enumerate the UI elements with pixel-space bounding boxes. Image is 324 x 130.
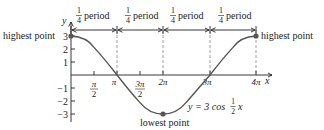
svg-text:1: 1 xyxy=(219,6,223,15)
ytick-2: 2 xyxy=(63,44,68,55)
x-ticks xyxy=(94,71,256,75)
y-axis-label: y xyxy=(61,15,67,26)
ytick-3: 3 xyxy=(63,31,68,42)
svg-text:1: 1 xyxy=(231,97,235,106)
svg-text:2: 2 xyxy=(92,89,97,99)
svg-text:period: period xyxy=(178,10,204,21)
svg-text:1: 1 xyxy=(126,6,130,15)
svg-text:period: period xyxy=(226,10,252,21)
ytick-m2: −2 xyxy=(57,96,68,107)
ytick-1: 1 xyxy=(63,57,68,68)
highest-point-right-marker xyxy=(253,33,258,38)
svg-text:period: period xyxy=(133,10,159,21)
ytick-m1: −1 xyxy=(57,83,68,94)
xtick-3pi-over-2: 3π 2 xyxy=(134,79,145,99)
period-guides xyxy=(117,30,256,75)
xtick-2pi: 2π xyxy=(158,77,168,87)
svg-text:x: x xyxy=(237,101,243,112)
xtick-pi: π xyxy=(112,77,117,87)
svg-text:2: 2 xyxy=(138,89,143,99)
equation-label: y = 3 cos 1 2 x xyxy=(187,97,243,116)
cosine-graph: 1 4 period 1 4 period 1 4 period 1 4 per… xyxy=(0,0,324,130)
x-axis-label: x xyxy=(264,75,270,86)
period-label-1: 1 4 period xyxy=(76,6,110,25)
svg-text:4: 4 xyxy=(219,16,223,25)
period-label-2: 1 4 period xyxy=(125,6,159,25)
svg-text:π: π xyxy=(92,79,97,89)
highest-point-right-label: highest point xyxy=(261,30,313,41)
ytick-m3: −3 xyxy=(57,109,68,120)
period-label-4: 1 4 period xyxy=(218,6,252,25)
svg-text:4: 4 xyxy=(126,16,130,25)
svg-text:1: 1 xyxy=(77,6,81,15)
xtick-pi-over-2: π 2 xyxy=(90,79,98,99)
svg-text:y = 3 cos: y = 3 cos xyxy=(187,101,225,112)
period-arrows xyxy=(71,26,256,34)
lowest-point-label: lowest point xyxy=(140,117,189,128)
svg-text:period: period xyxy=(84,10,110,21)
xtick-4pi: 4π xyxy=(251,77,261,87)
lowest-point-marker xyxy=(160,111,165,116)
highest-point-left-marker xyxy=(68,33,73,38)
period-label-3: 1 4 period xyxy=(170,6,204,25)
svg-text:4: 4 xyxy=(77,16,81,25)
svg-text:3π: 3π xyxy=(134,79,145,89)
highest-point-left-label: highest point xyxy=(3,30,55,41)
svg-text:2: 2 xyxy=(231,107,235,116)
svg-text:1: 1 xyxy=(171,6,175,15)
svg-text:4: 4 xyxy=(171,16,175,25)
